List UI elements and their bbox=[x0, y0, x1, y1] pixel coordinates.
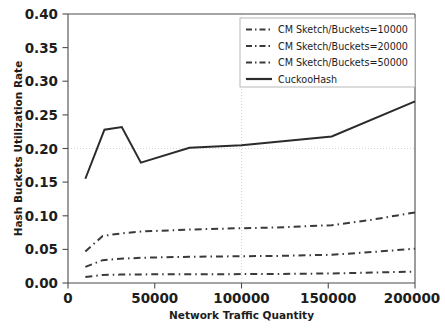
y-tick-label: 0.25 bbox=[25, 107, 58, 123]
legend-label: CuckooHash bbox=[278, 74, 337, 85]
x-tick-label: 100000 bbox=[213, 290, 269, 306]
x-tick-label: 0 bbox=[63, 290, 72, 306]
x-tick-label: 150000 bbox=[300, 290, 356, 306]
line-chart: 0.40 0.35 0.30 0.25 0.20 0.15 0.10 0.05 … bbox=[0, 0, 445, 330]
y-tickmarks bbox=[63, 14, 69, 283]
y-tick-label: 0.35 bbox=[25, 40, 58, 56]
y-tick-label: 0.40 bbox=[25, 6, 58, 22]
y-tick-labels: 0.40 0.35 0.30 0.25 0.20 0.15 0.10 0.05 … bbox=[25, 6, 58, 291]
legend-label: CM Sketch/Buckets=20000 bbox=[278, 41, 408, 52]
x-axis-title: Network Traffic Quantity bbox=[169, 309, 314, 321]
y-axis-title: Hash Buckets Utilization Rate bbox=[12, 61, 24, 237]
x-tickmarks bbox=[68, 283, 415, 289]
legend-label: CM Sketch/Buckets=10000 bbox=[278, 24, 408, 35]
y-tick-label: 0.05 bbox=[25, 241, 58, 257]
y-tick-label: 0.15 bbox=[25, 174, 58, 190]
y-tick-label: 0.30 bbox=[25, 73, 58, 89]
y-tick-label: 0.00 bbox=[25, 275, 58, 291]
x-tick-label: 200000 bbox=[384, 290, 440, 306]
chart-figure: 0.40 0.35 0.30 0.25 0.20 0.15 0.10 0.05 … bbox=[0, 0, 445, 330]
y-tick-label: 0.20 bbox=[25, 141, 58, 157]
legend-label: CM Sketch/Buckets=50000 bbox=[278, 57, 408, 68]
chart-legend: CM Sketch/Buckets=10000 CM Sketch/Bucket… bbox=[240, 18, 415, 87]
x-tick-label: 50000 bbox=[131, 290, 178, 306]
x-tick-labels: 0 50000 100000 150000 200000 bbox=[63, 290, 440, 306]
y-tick-label: 0.10 bbox=[25, 208, 58, 224]
